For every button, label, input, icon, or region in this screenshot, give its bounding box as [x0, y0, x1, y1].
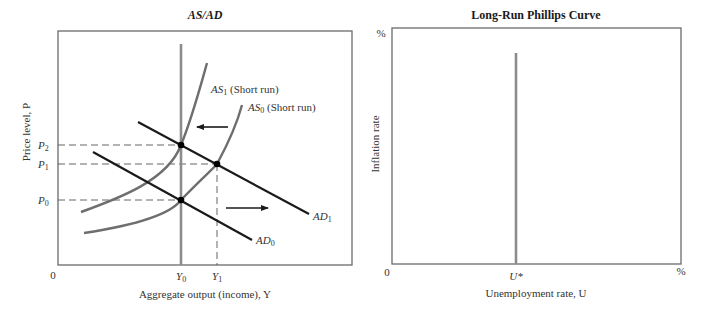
asad-panel: AS/AD AS1 (Short run) AS0 (Short run) AD…	[20, 8, 352, 301]
phillips-panel: Long-Run Phillips Curve % % 0 U* Unemplo…	[369, 8, 686, 299]
as1-label: AS1 (Short run)	[210, 83, 279, 97]
equilibrium-point-y0-p2	[178, 142, 185, 149]
dashed-guides	[58, 145, 217, 265]
y1-tick-label: Y1	[212, 270, 222, 284]
asad-title: AS/AD	[187, 8, 223, 22]
equilibrium-point-y1-p1	[214, 161, 221, 168]
equilibrium-point-y0-p0	[178, 197, 185, 204]
asad-origin-label: 0	[50, 269, 56, 281]
phillips-frame	[392, 28, 681, 264]
asad-y-axis-title: Price level, P	[20, 103, 32, 161]
p1-tick-label: P1	[37, 158, 49, 172]
as0-label: AS0 (Short run)	[247, 101, 316, 115]
asad-x-axis-title: Aggregate output (income), Y	[139, 288, 271, 301]
phillips-y-axis-title: Inflation rate	[369, 115, 381, 172]
ustar-tick-label: U*	[509, 270, 523, 282]
phillips-y-max-label: %	[376, 27, 385, 39]
phillips-x-max-label: %	[676, 265, 685, 277]
phillips-x-axis-title: Unemployment rate, U	[485, 287, 586, 299]
ad1-label: AD1	[312, 210, 332, 224]
ad0-label: AD0	[255, 234, 275, 248]
figure: AS/AD AS1 (Short run) AS0 (Short run) AD…	[0, 0, 703, 314]
phillips-origin-label: 0	[384, 266, 390, 278]
y0-tick-label: Y0	[176, 270, 186, 284]
p0-tick-label: P0	[37, 194, 49, 208]
phillips-title: Long-Run Phillips Curve	[471, 8, 601, 22]
as1-curve	[81, 63, 207, 212]
p2-tick-label: P2	[37, 139, 49, 153]
